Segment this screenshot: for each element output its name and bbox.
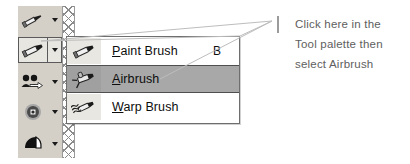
flood-fill-dropdown-arrow[interactable] [48,131,62,157]
annotation-line-1: Click here in the [295,14,407,34]
callout-tick-mark [277,16,279,33]
accelerator-letter: W [112,100,123,114]
tool-button-flood-fill[interactable] [18,130,62,158]
menu-item-label: Warp Brush [101,100,221,114]
chevron-down-icon [52,142,58,146]
warp-brush-icon [67,94,101,120]
annotation-text: Click here in the Tool palette then sele… [295,14,407,74]
label-rest: arp Brush [123,100,178,114]
chevron-down-icon [52,80,58,84]
menu-item-shortcut: B [213,44,239,58]
paint-brush-tool-icon[interactable] [18,37,48,63]
tool-button-retouch[interactable] [18,98,62,126]
pen-tool-icon[interactable] [18,7,48,33]
retouch-tool-icon[interactable] [18,99,48,125]
chevron-down-icon [52,18,58,22]
airbrush-icon [67,66,101,92]
paint-brush-icon [67,38,101,64]
menu-item-label: Airbrush [101,72,221,86]
tool-palette [18,6,62,158]
label-rest: irbrush [120,72,159,86]
retouch-dropdown-arrow[interactable] [48,99,62,125]
chevron-down-icon [52,48,58,52]
menu-item-warp-brush[interactable]: Warp Brush [67,93,239,121]
paint-brush-dropdown-arrow[interactable] [48,37,62,63]
menu-item-airbrush[interactable]: Airbrush [67,65,239,93]
screenshot-root: Paint Brush B Airbrush [0,0,410,164]
label-rest: aint Brush [120,44,177,58]
brush-flyout-menu: Paint Brush B Airbrush [66,36,240,124]
fill-flood-tool-icon[interactable] [18,131,48,157]
annotation-line-3: select Airbrush [295,54,407,74]
clone-brush-tool-icon[interactable] [18,69,48,95]
chevron-down-icon [52,110,58,114]
menu-item-label: Paint Brush [101,44,213,58]
tool-button-paint-brush[interactable] [18,36,62,64]
tool-button-pen[interactable] [18,6,62,34]
pen-tool-dropdown-arrow[interactable] [48,7,62,33]
menu-item-paint-brush[interactable]: Paint Brush B [67,37,239,65]
tool-button-clone-brush[interactable] [18,68,62,96]
clone-brush-dropdown-arrow[interactable] [48,69,62,95]
annotation-line-2: Tool palette then [295,34,407,54]
